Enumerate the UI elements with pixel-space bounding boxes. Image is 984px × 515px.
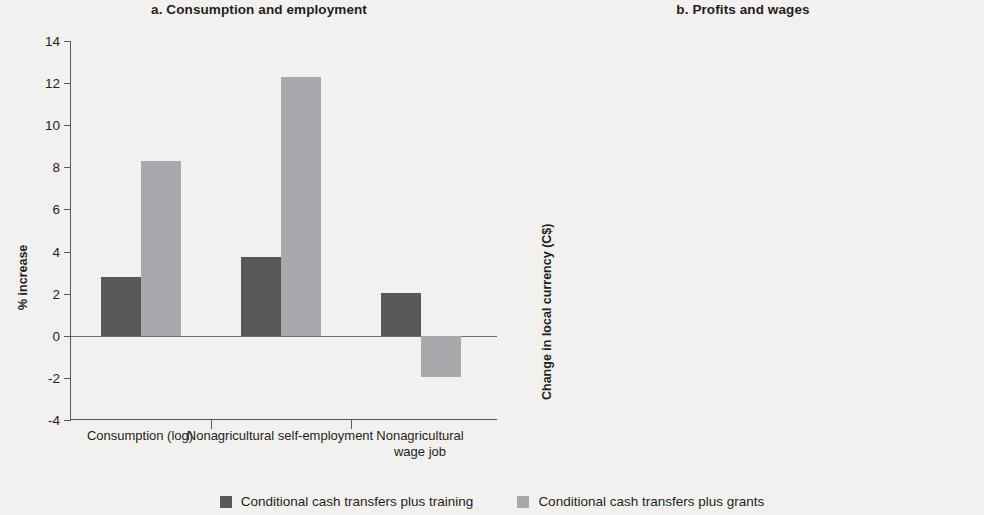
y-axis-tick <box>64 294 71 295</box>
legend-item: Conditional cash transfers plus training <box>220 494 474 509</box>
bar-grants-0 <box>141 161 181 336</box>
panel-a-plot-area: 14121086420-2-4 <box>70 41 491 420</box>
x-axis-category-label: Nonagricultural self-employment <box>187 428 373 444</box>
x-axis-category-label: Consumption (log) <box>87 428 193 444</box>
y-axis-tick <box>64 420 71 421</box>
legend-label: Conditional cash transfers plus grants <box>538 494 764 509</box>
panel-a: a. Consumption and employment % increase… <box>0 0 500 478</box>
y-axis-tick <box>64 83 71 84</box>
panel-a-baseline <box>71 419 497 420</box>
y-axis-tick <box>64 252 71 253</box>
panel-a-y-axis-title: % increase <box>16 245 30 310</box>
y-axis-tick <box>64 378 71 379</box>
y-axis-tick <box>64 167 71 168</box>
y-axis-tick-label: 8 <box>52 160 60 175</box>
bar-grants-1 <box>281 77 321 336</box>
y-axis-tick <box>64 209 71 210</box>
legend-label: Conditional cash transfers plus training <box>241 494 474 509</box>
y-axis-tick-label: -4 <box>48 413 60 428</box>
figure-root: a. Consumption and employment % increase… <box>0 0 984 515</box>
dark-swatch-icon <box>220 496 232 508</box>
y-axis-tick <box>64 336 71 337</box>
y-axis-tick-label: 12 <box>45 76 60 91</box>
panel-b-y-axis-title: Change in local currency (C$) <box>540 224 554 400</box>
panel-b-title: b. Profits and wages <box>512 2 974 17</box>
y-axis-tick-label: -2 <box>48 370 60 385</box>
bar-training-2 <box>381 293 421 336</box>
y-axis-tick-label: 0 <box>52 328 60 343</box>
panel-a-title: a. Consumption and employment <box>28 2 490 17</box>
panel-b: b. Profits and wages Change in local cur… <box>492 0 984 478</box>
y-axis-tick-label: 2 <box>52 286 60 301</box>
bar-training-1 <box>241 257 281 336</box>
light-swatch-icon <box>517 496 529 508</box>
y-axis-tick-label: 4 <box>52 244 60 259</box>
y-axis-tick-label: 14 <box>45 34 60 49</box>
legend-item: Conditional cash transfers plus grants <box>517 494 764 509</box>
bar-grants-2 <box>421 336 461 377</box>
bar-training-0 <box>101 277 141 336</box>
chart-legend: Conditional cash transfers plus training… <box>0 494 984 509</box>
y-axis-tick <box>64 41 71 42</box>
x-axis-category-label: Nonagricultural wage job <box>376 428 463 460</box>
y-axis-tick <box>64 125 71 126</box>
y-axis-tick-label: 10 <box>45 118 60 133</box>
y-axis-tick-label: 6 <box>52 202 60 217</box>
